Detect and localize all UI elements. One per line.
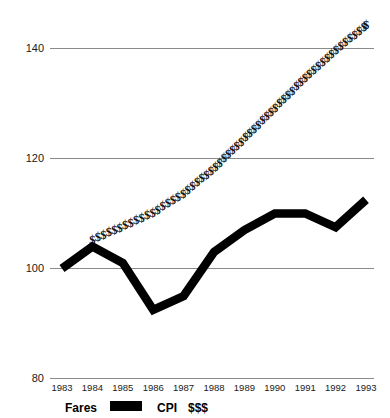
chart-container: 140 120 100 80 $$$$$$$$$$$$$$$$$$$$$$$$$… [0,0,390,418]
x-tick-label: 1993 [355,382,376,393]
series-cpi: $$$$$$$$$$$$$$$$$$$$$$$$$$$$$$$$$$$$$$$$… [89,18,369,247]
y-axis: 140 120 100 80 [26,42,44,384]
x-tick-label: 1988 [203,382,224,393]
legend-label-cpi: CPI [157,401,177,415]
series-fares [62,200,366,310]
x-tick-label: 1992 [325,382,346,393]
x-tick-label: 1990 [264,382,285,393]
x-tick-label: 1989 [234,382,255,393]
cpi-dollar-marker: $ [363,18,369,32]
gridlines [50,49,374,379]
line-chart: 140 120 100 80 $$$$$$$$$$$$$$$$$$$$$$$$$… [0,0,390,418]
legend: Fares CPI $$$ [65,401,208,415]
y-tick-label: 140 [26,42,44,54]
x-tick-label: 1985 [112,382,133,393]
y-tick-label: 80 [32,372,44,384]
legend-symbol-cpi: $$$ [188,401,208,415]
x-axis: 1983198419851986198719881989199019911992… [51,382,376,393]
x-tick-label: 1991 [295,382,316,393]
y-tick-label: 100 [26,262,44,274]
y-tick-label: 120 [26,152,44,164]
x-tick-label: 1986 [143,382,164,393]
x-tick-label: 1987 [173,382,194,393]
x-tick-label: 1984 [82,382,103,393]
x-tick-label: 1983 [51,382,72,393]
legend-swatch-fares [110,401,142,411]
legend-label-fares: Fares [65,401,97,415]
